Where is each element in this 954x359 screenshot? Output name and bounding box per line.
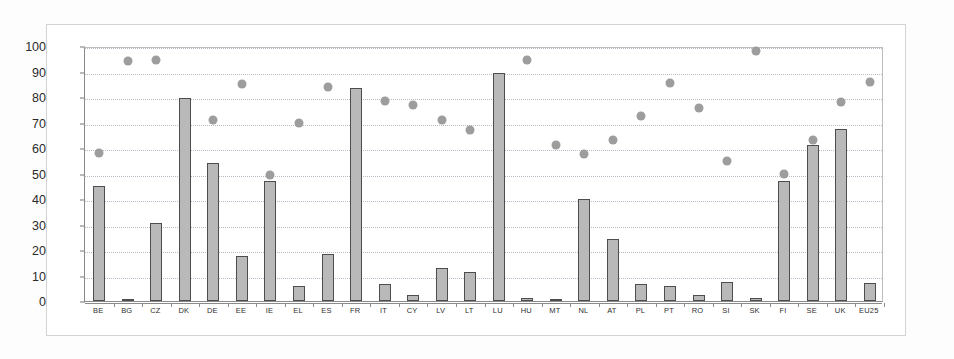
y-tick-label-100: 100 [12, 40, 46, 54]
x-tick-label-SE: SE [806, 306, 816, 315]
bar-ES [322, 254, 334, 301]
dot-MT [551, 141, 560, 150]
bar-FR [350, 88, 362, 301]
x-tick-mark-EU25 [884, 303, 885, 307]
gridline-70 [85, 125, 882, 126]
bar-EE [236, 256, 248, 301]
dot-CZ [152, 56, 161, 65]
bar-RO [693, 295, 705, 301]
bar-CY [407, 295, 419, 301]
gridline-50 [85, 176, 882, 177]
x-tick-label-AT: AT [607, 306, 616, 315]
bar-SI [721, 282, 733, 301]
dot-CY [409, 100, 418, 109]
dot-AT [608, 136, 617, 145]
dot-LV [437, 115, 446, 124]
gridline-20 [85, 252, 882, 253]
bar-PL [635, 284, 647, 301]
dot-NL [580, 150, 589, 159]
x-tick-label-BE: BE [93, 306, 103, 315]
gridline-80 [85, 99, 882, 100]
x-tick-label-FR: FR [350, 306, 360, 315]
dot-BE [95, 149, 104, 158]
gridline-30 [85, 227, 882, 228]
bar-EU25 [864, 283, 876, 301]
x-tick-label-SI: SI [722, 306, 730, 315]
x-tick-label-BG: BG [121, 306, 132, 315]
y-tick-label-0: 0 [12, 295, 46, 309]
bar-DK [179, 98, 191, 301]
bar-MT [550, 299, 562, 301]
x-tick-label-NL: NL [578, 306, 588, 315]
x-tick-label-MT: MT [549, 306, 560, 315]
dot-FI [780, 169, 789, 178]
dot-SE [808, 136, 817, 145]
bar-NL [578, 199, 590, 301]
dot-EU25 [865, 77, 874, 86]
x-tick-label-IE: IE [266, 306, 274, 315]
bar-CZ [150, 223, 162, 301]
y-tick-label-10: 10 [12, 270, 46, 284]
dot-RO [694, 104, 703, 113]
bar-PT [664, 286, 676, 301]
x-tick-label-EE: EE [236, 306, 246, 315]
bar-HU [521, 298, 533, 301]
gridline-90 [85, 74, 882, 75]
bar-LU [493, 73, 505, 301]
y-tick-label-80: 80 [12, 91, 46, 105]
dot-PT [665, 78, 674, 87]
bar-BE [93, 186, 105, 301]
dot-HU [523, 56, 532, 65]
dot-ES [323, 82, 332, 91]
x-tick-label-RO: RO [692, 306, 704, 315]
dot-IT [380, 96, 389, 105]
bar-EL [293, 286, 305, 301]
bar-LT [464, 272, 476, 301]
x-tick-label-CZ: CZ [150, 306, 160, 315]
dot-PL [637, 112, 646, 121]
bar-UK [835, 129, 847, 301]
gridline-60 [85, 150, 882, 151]
x-tick-label-LT: LT [465, 306, 474, 315]
bar-DE [207, 163, 219, 301]
dot-SK [751, 47, 760, 56]
y-tick-label-50: 50 [12, 168, 46, 182]
x-axis-labels: BEBGCZDKDEEEIEELESFRITCYLVLTLUHUMTNLATPL… [84, 306, 883, 322]
x-tick-label-LV: LV [436, 306, 445, 315]
bar-LV [436, 268, 448, 301]
bar-SK [750, 298, 762, 301]
x-tick-label-DE: DE [207, 306, 218, 315]
bar-FI [778, 181, 790, 301]
gridline-100 [85, 48, 882, 49]
y-tick-label-40: 40 [12, 193, 46, 207]
x-tick-label-UK: UK [835, 306, 846, 315]
bar-IT [379, 284, 391, 301]
y-tick-label-70: 70 [12, 117, 46, 131]
x-tick-label-PT: PT [664, 306, 674, 315]
x-tick-label-FI: FI [780, 306, 787, 315]
y-tick-label-20: 20 [12, 244, 46, 258]
dot-IE [266, 170, 275, 179]
bar-SE [807, 145, 819, 301]
dot-LT [466, 126, 475, 135]
x-tick-label-ES: ES [321, 306, 331, 315]
y-tick-label-30: 30 [12, 219, 46, 233]
chart-figure: 0102030405060708090100 BEBGCZDKDEEEIEELE… [0, 0, 954, 359]
y-tick-label-90: 90 [12, 66, 46, 80]
dot-EL [295, 118, 304, 127]
y-tick-label-60: 60 [12, 142, 46, 156]
x-tick-label-SK: SK [749, 306, 759, 315]
gridline-40 [85, 201, 882, 202]
x-tick-label-IT: IT [380, 306, 387, 315]
bar-IE [264, 181, 276, 301]
dot-SI [723, 156, 732, 165]
dot-DE [209, 115, 218, 124]
dot-EE [237, 80, 246, 89]
plot-area [84, 47, 883, 302]
x-tick-label-DK: DK [178, 306, 189, 315]
dot-BG [123, 57, 132, 66]
x-tick-label-HU: HU [521, 306, 532, 315]
bar-AT [607, 239, 619, 301]
x-tick-label-EL: EL [293, 306, 303, 315]
x-tick-label-EU25: EU25 [859, 306, 879, 315]
